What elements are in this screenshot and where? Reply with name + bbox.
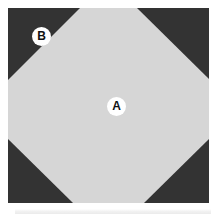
next-panel-edge bbox=[15, 209, 211, 214]
region-label-a: A bbox=[107, 97, 126, 116]
figure-panel: A B bbox=[0, 0, 219, 214]
region-label-b: B bbox=[32, 27, 51, 46]
octagon-plate: A B bbox=[8, 8, 209, 203]
